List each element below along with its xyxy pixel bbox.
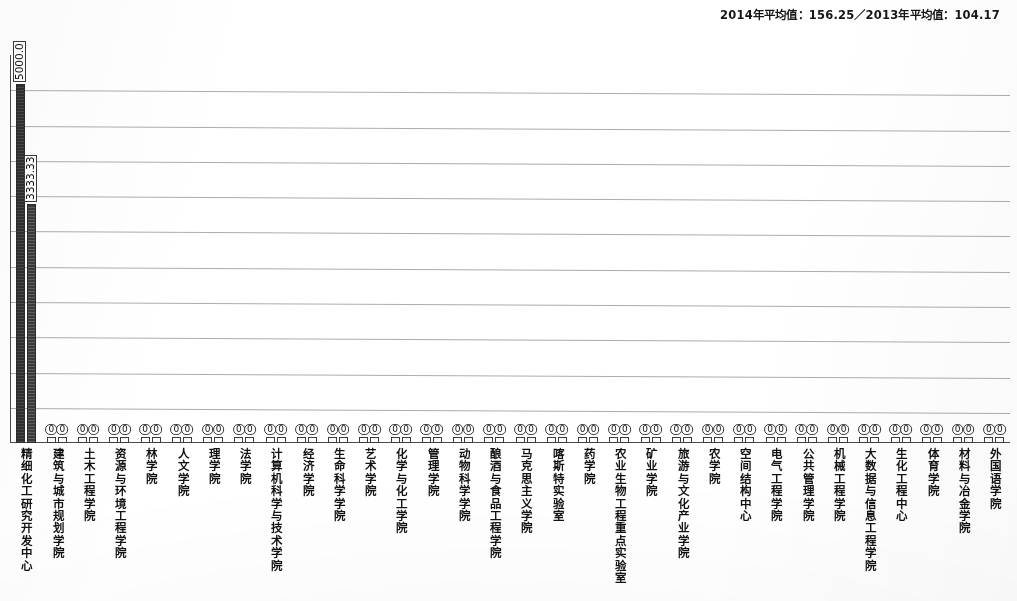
bar-series-2014[interactable] xyxy=(203,437,212,443)
bar-series-2013[interactable] xyxy=(933,437,942,443)
bar-series-2014[interactable] xyxy=(953,437,962,443)
bar-series-2014[interactable] xyxy=(109,437,118,443)
bar-series-2013[interactable] xyxy=(152,437,161,443)
bar-series-2013[interactable] xyxy=(839,437,848,443)
bar-series-2014[interactable] xyxy=(47,437,56,443)
bar-series-2014[interactable] xyxy=(359,437,368,443)
category-label: 精细化工研究开发中心 xyxy=(19,448,32,572)
bar-value-label: 0 xyxy=(796,424,808,436)
bar-series-2013[interactable] xyxy=(464,437,473,443)
bar-value-label: 0 xyxy=(182,424,194,436)
bar-wrapper: 0 xyxy=(870,437,879,443)
bar-series-2014[interactable] xyxy=(578,437,587,443)
bar-wrapper: 0 xyxy=(109,437,118,443)
bar-series-2014[interactable] xyxy=(453,437,462,443)
category-label: 马克思主义学院 xyxy=(519,448,532,535)
category-label: 资源与环境工程学院 xyxy=(113,448,126,560)
bar-group: 00 xyxy=(666,55,697,443)
category-label: 建筑与城市规划学院 xyxy=(50,448,63,560)
bar-series-2013[interactable] xyxy=(683,437,692,443)
bar-series-2014[interactable] xyxy=(797,437,806,443)
bar-series-2014[interactable] xyxy=(922,437,931,443)
bar-series-2014[interactable] xyxy=(484,437,493,443)
bar-series-2013[interactable] xyxy=(214,437,223,443)
bar-wrapper: 0 xyxy=(558,437,567,443)
bar-value-label: 0 xyxy=(671,424,683,436)
bar-series-2014[interactable] xyxy=(16,84,25,443)
bar-series-2014[interactable] xyxy=(734,437,743,443)
bar-series-2013[interactable] xyxy=(339,437,348,443)
bar-value-label: 0 xyxy=(369,424,381,436)
bar-series-2013[interactable] xyxy=(902,437,911,443)
bar-series-2013[interactable] xyxy=(964,437,973,443)
bar-series-2014[interactable] xyxy=(172,437,181,443)
bar-series-2014[interactable] xyxy=(859,437,868,443)
bar-value-label: 0 xyxy=(307,424,319,436)
bar-series-2014[interactable] xyxy=(516,437,525,443)
bar-group: 00 xyxy=(41,55,72,443)
bar-series-2014[interactable] xyxy=(703,437,712,443)
bar-series-2013[interactable] xyxy=(433,437,442,443)
category-label: 药学院 xyxy=(581,448,594,485)
bar-series-2013[interactable] xyxy=(714,437,723,443)
bar-series-2014[interactable] xyxy=(266,437,275,443)
bar-value-label: 0 xyxy=(494,424,506,436)
bar-series-2013[interactable] xyxy=(589,437,598,443)
bar-series-2013[interactable] xyxy=(620,437,629,443)
bar-group: 00 xyxy=(698,55,729,443)
bar-series-2014[interactable] xyxy=(828,437,837,443)
bar-series-2014[interactable] xyxy=(984,437,993,443)
bar-series-2014[interactable] xyxy=(422,437,431,443)
bar-wrapper: 0 xyxy=(891,437,900,443)
bar-series-2013[interactable] xyxy=(27,204,36,444)
bar-wrapper: 0 xyxy=(370,437,379,443)
bar-series-2013[interactable] xyxy=(527,437,536,443)
bar-value-label: 0 xyxy=(525,424,537,436)
bar-series-2014[interactable] xyxy=(891,437,900,443)
bar-group: 00 xyxy=(385,55,416,443)
bar-series-2013[interactable] xyxy=(777,437,786,443)
bar-series-2014[interactable] xyxy=(141,437,150,443)
bar-wrapper: 0 xyxy=(641,437,650,443)
bar-value-label: 0 xyxy=(483,424,495,436)
bar-series-2014[interactable] xyxy=(234,437,243,443)
bar-series-2013[interactable] xyxy=(870,437,879,443)
bar-series-2013[interactable] xyxy=(558,437,567,443)
bar-series-2014[interactable] xyxy=(547,437,556,443)
bar-value-label: 0 xyxy=(952,424,964,436)
bar-series-2014[interactable] xyxy=(297,437,306,443)
bar-series-2013[interactable] xyxy=(652,437,661,443)
bar-wrapper: 0 xyxy=(797,437,806,443)
bar-series-2013[interactable] xyxy=(277,437,286,443)
bar-value-label: 0 xyxy=(139,424,151,436)
category-label: 生化工程中心 xyxy=(894,448,907,522)
bar-series-2013[interactable] xyxy=(245,437,254,443)
bar-group: 00 xyxy=(604,55,635,443)
bar-series-2013[interactable] xyxy=(308,437,317,443)
bar-series-2014[interactable] xyxy=(391,437,400,443)
bar-group: 00 xyxy=(823,55,854,443)
bar-wrapper: 0 xyxy=(828,437,837,443)
bar-series-2014[interactable] xyxy=(609,437,618,443)
bar-series-2014[interactable] xyxy=(672,437,681,443)
bar-series-2014[interactable] xyxy=(641,437,650,443)
bar-series-2013[interactable] xyxy=(120,437,129,443)
bar-value-label: 0 xyxy=(889,424,901,436)
bar-series-2014[interactable] xyxy=(766,437,775,443)
bar-value-label: 0 xyxy=(983,424,995,436)
bar-series-2013[interactable] xyxy=(995,437,1004,443)
bar-wrapper: 0 xyxy=(172,437,181,443)
bar-series-2013[interactable] xyxy=(402,437,411,443)
bar-series-2013[interactable] xyxy=(183,437,192,443)
bar-series-2013[interactable] xyxy=(495,437,504,443)
bar-series-2013[interactable] xyxy=(370,437,379,443)
average-value-note: 2014年平均值：156.25／2013年平均值：104.17 xyxy=(720,6,1000,22)
bar-series-2014[interactable] xyxy=(328,437,337,443)
bar-series-2014[interactable] xyxy=(78,437,87,443)
bar-wrapper: 0 xyxy=(547,437,556,443)
bar-series-2013[interactable] xyxy=(89,437,98,443)
bar-series-2013[interactable] xyxy=(58,437,67,443)
bar-series-2013[interactable] xyxy=(745,437,754,443)
bar-wrapper: 0 xyxy=(995,437,1004,443)
bar-series-2013[interactable] xyxy=(808,437,817,443)
